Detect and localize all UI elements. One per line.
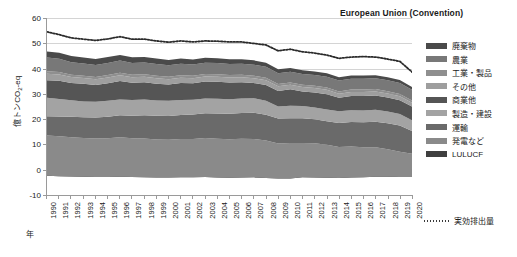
x-tickmark bbox=[327, 195, 328, 199]
x-tick-label: 1991 bbox=[61, 202, 70, 219]
legend-line-label: 実効排出量 bbox=[454, 215, 494, 226]
x-tickmark bbox=[58, 195, 59, 199]
x-tickmark bbox=[229, 195, 230, 199]
x-tick-label: 2015 bbox=[354, 202, 363, 219]
x-tick-label: 2020 bbox=[415, 202, 424, 219]
x-tickmark bbox=[217, 195, 218, 199]
y-axis-title: 億トンCO2-eq bbox=[11, 56, 24, 146]
x-tick-label: 2012 bbox=[317, 202, 326, 219]
chart-container: European Union (Convention) 億トンCO2-eq -1… bbox=[0, 0, 517, 257]
legend-swatch bbox=[426, 43, 447, 49]
y-tick-label: 0 bbox=[37, 165, 41, 174]
legend: 廃棄物農業工業・製品その他商業他製造・建設運輸発電などLULUCF bbox=[426, 40, 492, 160]
x-tickmark bbox=[351, 195, 352, 199]
x-tick-label: 2005 bbox=[232, 202, 241, 219]
x-tick-label: 2003 bbox=[208, 202, 217, 219]
x-tickmark bbox=[314, 195, 315, 199]
x-tickmark bbox=[339, 195, 340, 199]
plot-area: -100102030405060 bbox=[46, 18, 412, 195]
x-tick-label: 2010 bbox=[293, 202, 302, 219]
x-tickmark bbox=[156, 195, 157, 199]
x-tick-label: 1993 bbox=[86, 202, 95, 219]
y-tick-label: 40 bbox=[32, 64, 41, 73]
y-tick-label: 30 bbox=[32, 89, 41, 98]
legend-item[interactable]: 工業・製品 bbox=[426, 67, 492, 78]
y-tick-label: 20 bbox=[32, 115, 41, 124]
legend-item[interactable]: 廃棄物 bbox=[426, 40, 492, 51]
legend-item[interactable]: 製造・建設 bbox=[426, 108, 492, 119]
x-tick-label: 2007 bbox=[256, 202, 265, 219]
legend-swatch bbox=[426, 97, 447, 103]
x-tick-label: 2004 bbox=[220, 202, 229, 219]
x-tickmark bbox=[70, 195, 71, 199]
x-tick-label: 1994 bbox=[98, 202, 107, 219]
legend-item[interactable]: LULUCF bbox=[426, 149, 492, 160]
legend-swatch bbox=[426, 56, 447, 62]
legend-swatch bbox=[426, 151, 447, 157]
x-tick-label: 1996 bbox=[122, 202, 131, 219]
x-tick-label: 2018 bbox=[391, 202, 400, 219]
x-tick-label: 2017 bbox=[378, 202, 387, 219]
legend-item-label: 工業・製品 bbox=[452, 67, 492, 78]
x-tick-label: 1990 bbox=[49, 202, 58, 219]
y-tick-label: 60 bbox=[32, 14, 41, 23]
legend-item[interactable]: 運輸 bbox=[426, 122, 492, 133]
legend-item-label: 発電など bbox=[452, 135, 484, 146]
x-tickmark bbox=[302, 195, 303, 199]
x-tick-label: 1998 bbox=[147, 202, 156, 219]
x-axis-title: 年 bbox=[26, 228, 34, 239]
legend-swatch bbox=[426, 138, 447, 144]
x-tickmark bbox=[375, 195, 376, 199]
x-tickmark bbox=[278, 195, 279, 199]
y-tick-label: 50 bbox=[32, 39, 41, 48]
x-tickmark bbox=[180, 195, 181, 199]
legend-item-label: 商業他 bbox=[452, 94, 476, 105]
x-tickmark bbox=[46, 195, 47, 199]
legend-item-label: その他 bbox=[452, 81, 476, 92]
legend-item-label: 農業 bbox=[452, 54, 468, 65]
x-tickmark bbox=[388, 195, 389, 199]
legend-line-entry: 実効排出量 bbox=[424, 215, 494, 226]
x-tickmark bbox=[253, 195, 254, 199]
x-tickmark bbox=[241, 195, 242, 199]
x-tickmark bbox=[205, 195, 206, 199]
x-tick-label: 2011 bbox=[305, 202, 314, 218]
x-tickmark bbox=[144, 195, 145, 199]
x-tick-label: 1992 bbox=[73, 202, 82, 219]
legend-item-label: 運輸 bbox=[452, 122, 468, 133]
x-tick-label: 2008 bbox=[269, 202, 278, 219]
x-tick-label: 2019 bbox=[403, 202, 412, 219]
legend-item[interactable]: 商業他 bbox=[426, 94, 492, 105]
x-tickmark bbox=[400, 195, 401, 199]
x-tickmark bbox=[131, 195, 132, 199]
x-tick-label: 1999 bbox=[159, 202, 168, 219]
legend-swatch bbox=[426, 124, 447, 130]
x-tickmark bbox=[266, 195, 267, 199]
legend-item[interactable]: その他 bbox=[426, 81, 492, 92]
x-tickmark bbox=[83, 195, 84, 199]
dotted-line-icon bbox=[424, 220, 450, 222]
legend-item[interactable]: 農業 bbox=[426, 54, 492, 65]
legend-swatch bbox=[426, 110, 447, 116]
stacked-area-series bbox=[47, 18, 412, 195]
x-tick-label: 2002 bbox=[195, 202, 204, 219]
x-tickmark bbox=[412, 195, 413, 199]
x-tick-label: 2000 bbox=[171, 202, 180, 219]
x-tick-label: 1995 bbox=[110, 202, 119, 219]
x-tickmark bbox=[107, 195, 108, 199]
x-tick-label: 2009 bbox=[281, 202, 290, 219]
x-tick-label: 2013 bbox=[330, 202, 339, 219]
legend-swatch bbox=[426, 70, 447, 76]
legend-item-label: LULUCF bbox=[452, 150, 483, 159]
legend-item-label: 廃棄物 bbox=[452, 40, 476, 51]
legend-swatch bbox=[426, 83, 447, 89]
chart-title: European Union (Convention) bbox=[340, 8, 463, 18]
y-tick-label: 10 bbox=[32, 140, 41, 149]
y-tick-label: -10 bbox=[29, 191, 41, 200]
x-tickmark bbox=[290, 195, 291, 199]
x-tick-label: 2014 bbox=[342, 202, 351, 219]
legend-item-label: 製造・建設 bbox=[452, 108, 492, 119]
x-tickmark bbox=[119, 195, 120, 199]
x-tickmark bbox=[95, 195, 96, 199]
legend-item[interactable]: 発電など bbox=[426, 135, 492, 146]
